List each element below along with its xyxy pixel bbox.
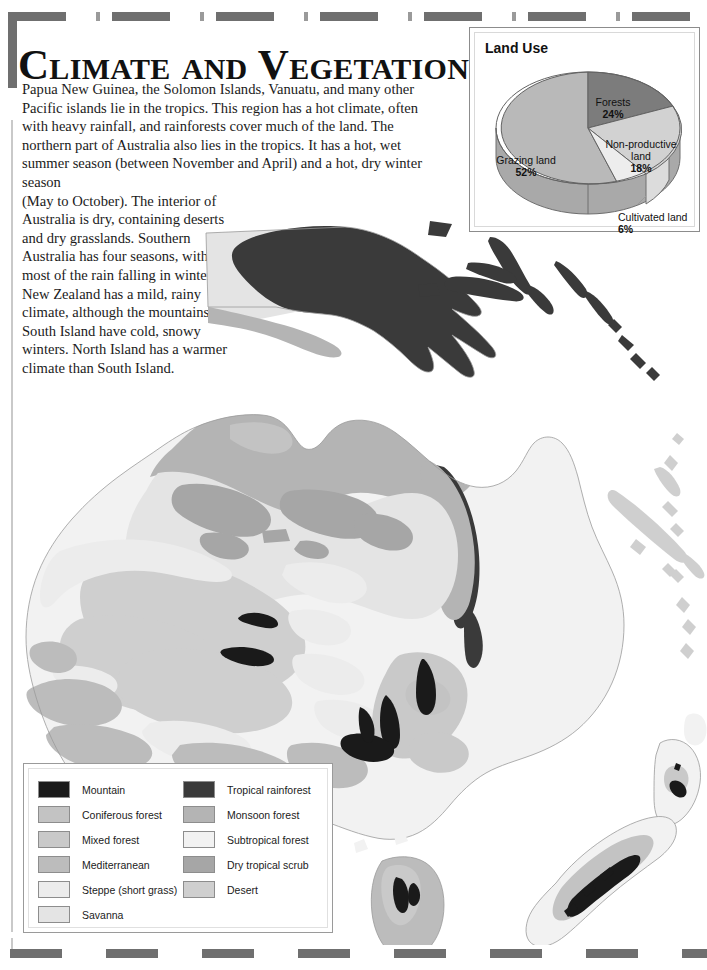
legend-item: Mediterranean <box>38 852 177 877</box>
legend-item: Mountain <box>38 777 177 802</box>
legend-label: Desert <box>227 884 258 896</box>
legend-swatch <box>183 806 215 823</box>
article-paragraph-wide: Papua New Guinea, the Solomon Islands, V… <box>22 80 434 192</box>
legend-swatch <box>183 856 215 873</box>
legend-item: Monsoon forest <box>183 802 311 827</box>
top-decorative-rule <box>8 12 707 21</box>
legend-item: Desert <box>183 877 311 902</box>
map-legend: MountainConiferous forestMixed forestMed… <box>23 763 333 933</box>
map-region-papua-new-guinea <box>206 226 496 377</box>
legend-label: Coniferous forest <box>82 809 162 821</box>
legend-swatch <box>183 781 215 798</box>
map-legend-column-left: MountainConiferous forestMixed forestMed… <box>38 777 177 927</box>
pie-label-forests: Forests 24% <box>582 96 644 120</box>
pie-label-forests-name: Forests <box>595 96 630 108</box>
legend-swatch <box>38 806 70 823</box>
legend-label: Mediterranean <box>82 859 150 871</box>
legend-label: Steppe (short grass) <box>82 884 177 896</box>
legend-label: Savanna <box>82 909 123 921</box>
legend-label: Monsoon forest <box>227 809 299 821</box>
legend-item: Steppe (short grass) <box>38 877 177 902</box>
legend-item: Savanna <box>38 902 177 927</box>
legend-item: Tropical rainforest <box>183 777 311 802</box>
map-region-tasmania <box>354 831 444 945</box>
left-decorative-rule <box>8 12 17 120</box>
bottom-rule-pattern <box>10 949 707 958</box>
pie-label-cultivated-name: Cultivated land <box>618 211 687 223</box>
legend-swatch <box>38 906 70 923</box>
legend-swatch <box>183 831 215 848</box>
map-legend-column-right: Tropical rainforestMonsoon forestSubtrop… <box>183 777 311 902</box>
pie-label-non-productive-name: Non-productive land <box>605 138 676 162</box>
pie-label-cultivated-land: Cultivated land 6% <box>618 211 694 235</box>
legend-label: Subtropical forest <box>227 834 309 846</box>
pie-label-forests-value: 24% <box>602 108 623 120</box>
pie-label-non-productive-value: 18% <box>630 162 651 174</box>
pie-label-grazing-name: Grazing land <box>496 154 556 166</box>
page-root: Climate and Vegetation Papua New Guinea,… <box>0 0 707 970</box>
legend-swatch <box>183 881 215 898</box>
legend-label: Mountain <box>82 784 125 796</box>
pie-label-cultivated-value: 6% <box>618 223 633 235</box>
land-use-pie-chart: Forests 24% Non-productive land 18% Graz… <box>470 46 701 236</box>
legend-item: Dry tropical scrub <box>183 852 311 877</box>
legend-label: Dry tropical scrub <box>227 859 309 871</box>
legend-label: Tropical rainforest <box>227 784 311 796</box>
legend-label: Mixed forest <box>82 834 139 846</box>
legend-item: Mixed forest <box>38 827 177 852</box>
pie-label-grazing-value: 52% <box>515 166 536 178</box>
land-use-panel: Land Use <box>469 27 700 232</box>
legend-item: Subtropical forest <box>183 827 311 852</box>
pie-label-non-productive-land: Non-productive land 18% <box>602 138 680 174</box>
map-region-new-zealand <box>526 713 707 945</box>
bottom-decorative-rule <box>10 949 707 958</box>
legend-swatch <box>38 831 70 848</box>
legend-swatch <box>38 856 70 873</box>
legend-swatch <box>38 781 70 798</box>
legend-item: Coniferous forest <box>38 802 177 827</box>
pie-label-grazing-land: Grazing land 52% <box>488 154 564 178</box>
legend-swatch <box>38 881 70 898</box>
